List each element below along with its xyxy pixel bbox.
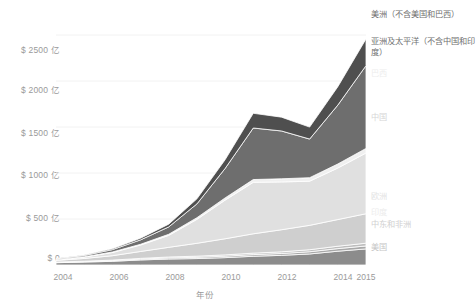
legend-item-brazil: 巴西 [371,69,475,80]
legend-item-europe: 欧洲 [371,192,475,203]
legend-item-india: 印度 [371,208,475,219]
legend-item-asia-pacific: 亚洲及太平洋（不含中国和印度） [371,37,475,58]
legend-item-china: 中国 [371,113,475,124]
x-axis-tick-2004: 2004 [43,272,83,282]
stacked-area-chart: $ 2500 亿 $ 2000 亿 $ 1500 亿 $ 1000 亿 $ 50… [0,0,476,308]
x-axis-tick-2015: 2015 [346,272,386,282]
legend-item-usa: 美国 [371,243,475,254]
x-axis-title: 年份 [175,288,235,300]
x-axis-tick-2006: 2006 [99,272,139,282]
x-axis-tick-2012: 2012 [267,272,307,282]
legend-item-americas: 美洲（不含美国和巴西） [371,10,475,21]
x-axis-tick-2010: 2010 [211,272,251,282]
area-series-group [56,39,366,265]
x-axis-tick-2008: 2008 [155,272,195,282]
legend-item-middle-east-africa: 中东和非洲 [371,220,475,231]
